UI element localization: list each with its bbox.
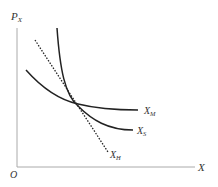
curve-label-x-m: XM bbox=[143, 105, 156, 117]
diagram: PX O X XM XS XH bbox=[0, 0, 218, 187]
curve-x-m bbox=[26, 70, 138, 110]
curve-label-x-h: XH bbox=[109, 149, 121, 161]
curve-x-h bbox=[35, 40, 108, 152]
curve-label-x-s: XS bbox=[136, 125, 147, 137]
curve-x-s bbox=[57, 28, 133, 130]
x-axis-label: X bbox=[197, 161, 206, 173]
origin-label: O bbox=[10, 169, 17, 180]
y-axis-label: PX bbox=[10, 10, 23, 24]
